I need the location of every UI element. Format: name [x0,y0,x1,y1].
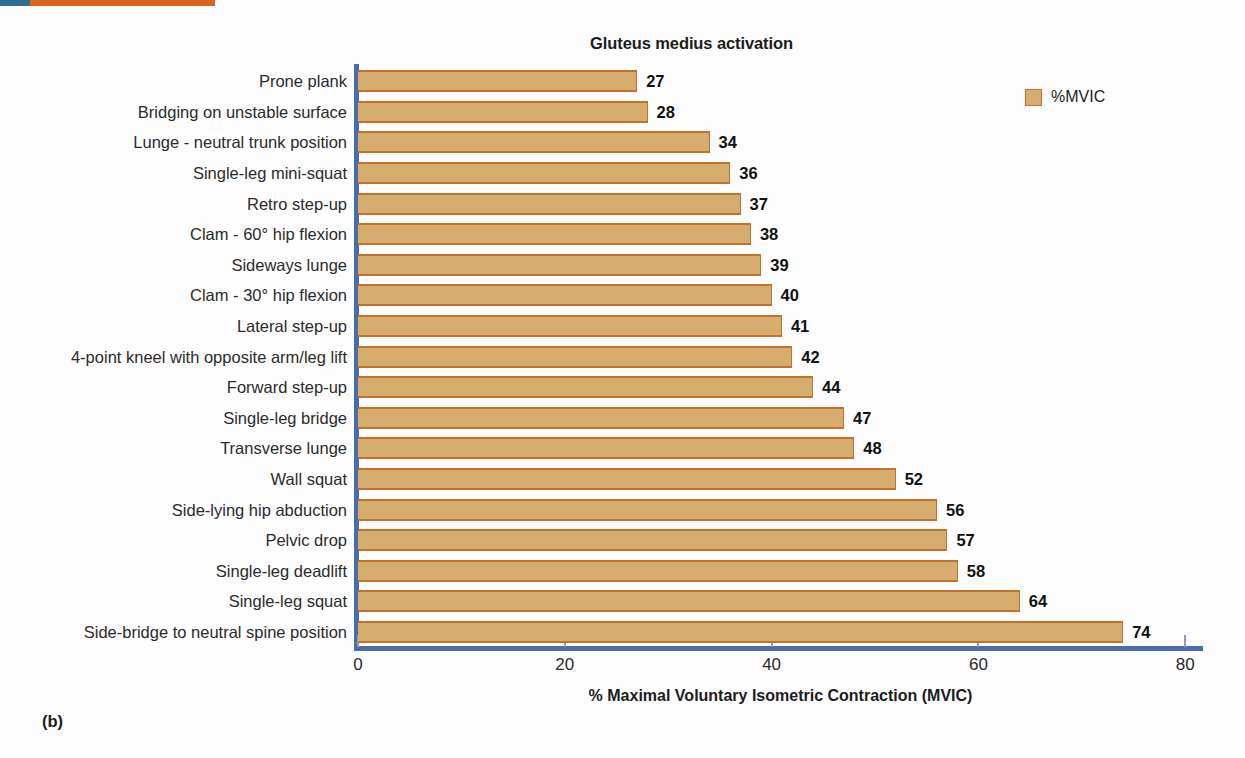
chart-bar[interactable] [358,437,854,459]
chart-bar[interactable] [358,346,792,368]
category-label: Clam - 30° hip flexion [190,286,347,305]
chart-bar[interactable] [358,315,782,337]
chart-row: Sideways lunge39 [0,250,1245,281]
plot-area: 020406080Prone plank27Bridging on unstab… [0,0,1245,758]
bar-value-label: 74 [1132,623,1150,642]
chart-row: Retro step-up37 [0,188,1245,219]
bar-value-label: 56 [946,500,964,519]
category-label: Bridging on unstable surface [138,102,347,121]
bar-value-label: 37 [750,194,768,213]
chart-bar[interactable] [358,529,947,551]
chart-row: Side-bridge to neutral spine position74 [0,617,1245,648]
category-label: Pelvic drop [265,531,347,550]
chart-bar[interactable] [358,468,896,490]
chart-bar[interactable] [358,162,730,184]
chart-row: Lateral step-up41 [0,311,1245,342]
chart-row: Single-leg deadlift58 [0,556,1245,587]
x-axis-tick-label: 0 [353,655,362,675]
chart-row: Bridging on unstable surface28 [0,97,1245,128]
category-label: Single-leg deadlift [216,561,347,580]
bar-value-label: 57 [956,531,974,550]
category-label: Transverse lunge [220,439,347,458]
bar-value-label: 28 [657,102,675,121]
chart-row: Wall squat52 [0,464,1245,495]
chart-row: Single-leg bridge47 [0,403,1245,434]
bar-value-label: 34 [719,133,737,152]
chart-row: Clam - 60° hip flexion38 [0,219,1245,250]
chart-bar[interactable] [358,560,958,582]
chart-row: Clam - 30° hip flexion40 [0,280,1245,311]
category-label: Forward step-up [227,378,347,397]
bar-value-label: 58 [967,561,985,580]
chart-row: Prone plank27 [0,66,1245,97]
chart-bar[interactable] [358,254,761,276]
category-label: Prone plank [259,72,347,91]
x-axis-tick-label: 20 [555,655,574,675]
category-label: Single-leg bridge [223,408,347,427]
category-label: Lunge - neutral trunk position [133,133,347,152]
bar-value-label: 64 [1029,592,1047,611]
category-label: Wall squat [271,470,347,489]
x-axis-tick-label: 80 [1176,655,1195,675]
chart-bar[interactable] [358,131,710,153]
chart-bar[interactable] [358,621,1123,643]
chart-row: Forward step-up44 [0,372,1245,403]
chart-bar[interactable] [358,101,648,123]
chart-bar[interactable] [358,590,1020,612]
chart-row: Single-leg squat64 [0,586,1245,617]
bar-value-label: 36 [739,164,757,183]
chart-bar[interactable] [358,70,637,92]
x-axis-title: % Maximal Voluntary Isometric Contractio… [358,687,1203,705]
category-label: Side-bridge to neutral spine position [84,623,347,642]
category-label: Clam - 60° hip flexion [190,225,347,244]
chart-row: Side-lying hip abduction56 [0,494,1245,525]
bar-value-label: 41 [791,317,809,336]
bar-value-label: 44 [822,378,840,397]
panel-caption: (b) [42,712,63,731]
category-label: Sideways lunge [231,255,347,274]
bar-value-label: 52 [905,470,923,489]
bar-value-label: 38 [760,225,778,244]
bar-value-label: 40 [781,286,799,305]
x-axis-tick-label: 40 [762,655,781,675]
chart-row: 4-point kneel with opposite arm/leg lift… [0,341,1245,372]
chart-row: Transverse lunge48 [0,433,1245,464]
category-label: Lateral step-up [237,317,347,336]
chart-bar[interactable] [358,407,844,429]
category-label: Retro step-up [247,194,347,213]
chart-bar[interactable] [358,499,937,521]
category-label: Single-leg mini-squat [193,164,347,183]
chart-row: Lunge - neutral trunk position34 [0,127,1245,158]
bar-value-label: 42 [801,347,819,366]
bar-value-label: 47 [853,408,871,427]
chart-bar[interactable] [358,223,751,245]
figure-panel: Gluteus medius activation %MVIC 02040608… [0,0,1245,758]
category-label: Side-lying hip abduction [172,500,347,519]
bar-value-label: 27 [646,72,664,91]
category-label: Single-leg squat [229,592,347,611]
chart-bar[interactable] [358,376,813,398]
bar-value-label: 48 [863,439,881,458]
chart-bar[interactable] [358,284,772,306]
category-label: 4-point kneel with opposite arm/leg lift [71,347,347,366]
bar-value-label: 39 [770,255,788,274]
chart-row: Single-leg mini-squat36 [0,158,1245,189]
chart-row: Pelvic drop57 [0,525,1245,556]
chart-bar[interactable] [358,193,741,215]
x-axis-tick-label: 60 [969,655,988,675]
